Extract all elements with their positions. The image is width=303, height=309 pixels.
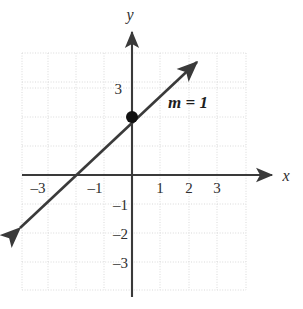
figure-background <box>0 0 303 309</box>
slope-annotation: m = 1 <box>168 93 208 112</box>
x-tick-label-3: 3 <box>213 180 221 196</box>
y-axis-label: y <box>124 6 134 24</box>
x-tick-label-2: 2 <box>185 180 193 196</box>
y-tick-label-neg3: –3 <box>112 255 128 271</box>
x-tick-label-neg1: –1 <box>87 180 103 196</box>
x-tick-label-neg3: –3 <box>30 180 46 196</box>
graph-figure: –3 –1 1 2 3 3 –1 –2 –3 x y m = 1 <box>0 0 303 309</box>
y-tick-label-neg1: –1 <box>112 197 128 213</box>
plotted-point <box>126 111 138 123</box>
coordinate-plane-svg: –3 –1 1 2 3 3 –1 –2 –3 x y m = 1 <box>0 0 303 309</box>
y-tick-label-neg2: –2 <box>112 226 128 242</box>
x-tick-label-1: 1 <box>156 180 164 196</box>
x-axis-label: x <box>281 167 289 184</box>
y-tick-label-3: 3 <box>115 81 123 97</box>
